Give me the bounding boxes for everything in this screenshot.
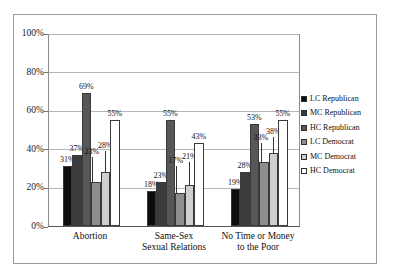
y-axis-tick-label: 40% (27, 145, 44, 155)
label-leader-line (273, 137, 274, 153)
x-axis-category-line: No Time or Money (216, 231, 300, 242)
x-axis-category-label: Abortion (48, 231, 132, 242)
bar (147, 191, 157, 226)
plot-area: 31%37%69%23%28%55%18%23%55%17%21%43%19%2… (48, 34, 300, 227)
legend-item-label: MC Democrat (310, 153, 356, 161)
bar (194, 143, 204, 226)
bar (156, 182, 166, 226)
bar (259, 162, 269, 226)
chart-figure: 100%80%60%40%20%0% 31%37%69%23%28%55%18%… (0, 0, 393, 280)
x-axis-category-line: Same-Sex (132, 231, 216, 242)
legend-swatch-icon (301, 154, 307, 160)
bar (240, 172, 250, 226)
x-axis-category-label: No Time or Moneyto the Poor (216, 231, 300, 253)
legend-item-label: LC Democrat (310, 138, 354, 146)
bar (278, 120, 288, 226)
legend-item[interactable]: MC Republican (301, 107, 361, 120)
legend-item-label: HC Republican (310, 124, 360, 132)
bar-value-label: 55% (104, 110, 126, 118)
legend-swatch-icon (301, 110, 307, 116)
bar-value-label: 69% (75, 83, 97, 91)
x-axis-category-label: Same-SexSexual Relations (132, 231, 216, 253)
label-leader-line (261, 143, 262, 162)
bar-group: 19%28%53%33%38%55% (217, 34, 301, 226)
legend-swatch-icon (301, 139, 307, 145)
bar (82, 93, 92, 226)
y-axis-tick-label: 0% (31, 222, 44, 232)
bar (91, 182, 101, 226)
bar (231, 189, 241, 226)
x-axis-category-line: to the Poor (216, 242, 300, 253)
bar-value-label: 55% (272, 110, 294, 118)
bar-value-label: 53% (243, 114, 265, 122)
bar (72, 155, 82, 226)
legend-item[interactable]: HC Republican (301, 121, 360, 134)
bar (110, 120, 120, 226)
legend-swatch-icon (301, 96, 307, 102)
bar (175, 193, 185, 226)
label-leader-line (105, 151, 106, 172)
legend-item-label: MC Republican (310, 109, 361, 117)
label-leader-line (92, 157, 93, 182)
bar (185, 185, 195, 226)
legend-swatch-icon (301, 168, 307, 174)
chart-legend: LC RepublicanMC RepublicanHC RepublicanL… (301, 92, 377, 184)
bar (166, 120, 176, 226)
label-leader-line (189, 162, 190, 185)
bar (63, 166, 73, 226)
label-leader-line (176, 166, 177, 193)
x-axis: AbortionSame-SexSexual RelationsNo Time … (48, 231, 300, 271)
legend-item-label: LC Republican (310, 95, 359, 103)
legend-item-label: HC Democrat (310, 167, 355, 175)
legend-item[interactable]: MC Democrat (301, 150, 356, 163)
y-axis-tick-label: 20% (27, 183, 44, 193)
legend-swatch-icon (301, 125, 307, 131)
legend-item[interactable]: HC Democrat (301, 165, 355, 178)
x-axis-category-line: Abortion (48, 231, 132, 242)
y-axis: 100%80%60%40%20%0% (0, 34, 44, 227)
legend-item[interactable]: LC Republican (301, 92, 359, 105)
bar-value-label: 43% (188, 133, 210, 141)
y-axis-tick-label: 60% (27, 106, 44, 116)
bar-group: 18%23%55%17%21%43% (133, 34, 217, 226)
legend-item[interactable]: LC Democrat (301, 136, 354, 149)
bar (101, 172, 111, 226)
y-axis-tick-label: 80% (27, 68, 44, 78)
x-axis-category-line: Sexual Relations (132, 242, 216, 253)
bar (269, 153, 279, 226)
bar-group: 31%37%69%23%28%55% (49, 34, 133, 226)
y-axis-tick-label: 100% (22, 29, 44, 39)
bar-value-label: 55% (159, 110, 181, 118)
